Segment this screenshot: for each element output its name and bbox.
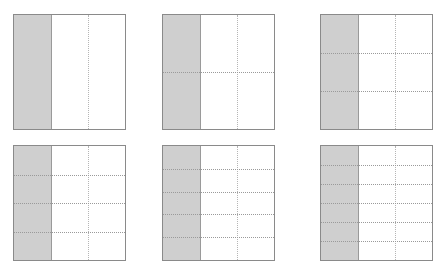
row-divider xyxy=(163,72,274,73)
column-divider xyxy=(237,146,238,260)
grid-4 xyxy=(13,145,126,261)
grid-3 xyxy=(320,14,433,130)
row-divider xyxy=(163,237,274,238)
shaded-column xyxy=(321,15,359,129)
row-divider xyxy=(321,53,432,54)
shaded-column xyxy=(14,15,52,129)
row-divider xyxy=(321,165,432,166)
row-divider xyxy=(321,184,432,185)
grid-2 xyxy=(162,14,275,130)
grid-1 xyxy=(13,14,126,130)
row-divider xyxy=(163,192,274,193)
shaded-column xyxy=(163,146,201,260)
row-divider xyxy=(163,214,274,215)
column-divider xyxy=(395,15,396,129)
row-divider xyxy=(163,169,274,170)
column-divider xyxy=(88,15,89,129)
grid-5 xyxy=(162,145,275,261)
grid-6 xyxy=(320,145,433,261)
row-divider xyxy=(321,241,432,242)
row-divider xyxy=(14,232,125,233)
row-divider xyxy=(321,222,432,223)
row-divider xyxy=(321,91,432,92)
row-divider xyxy=(321,203,432,204)
row-divider xyxy=(14,175,125,176)
row-divider xyxy=(14,203,125,204)
